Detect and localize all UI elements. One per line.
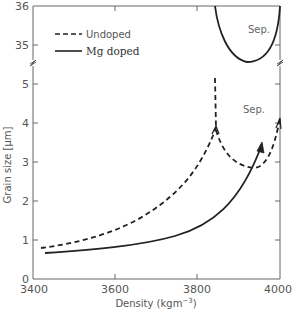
- y-tick-3: 3: [22, 156, 29, 169]
- y-axis-title: Grain size [μm]: [2, 127, 13, 204]
- x-tick-labels: 3400 3600 3800 4000: [20, 283, 292, 296]
- legend: Undoped Mg doped: [55, 29, 140, 57]
- legend-undoped-label: Undoped: [86, 29, 131, 40]
- y-tick-36: 36: [15, 0, 29, 13]
- x-tick-4000: 4000: [264, 283, 292, 296]
- y-tick-1: 1: [22, 234, 29, 247]
- axes: [33, 6, 280, 279]
- y-ticks: [33, 45, 280, 240]
- y-tick-4: 4: [22, 117, 29, 130]
- annotation-sep-lower: Sep.: [243, 104, 265, 115]
- legend-mg-label: Mg doped: [86, 45, 140, 57]
- y-tick-5: 5: [22, 78, 29, 91]
- x-axis-title: Density (kgm−3): [115, 297, 196, 309]
- mg-doped-arrow-icon: [257, 142, 264, 153]
- x-tick-3600: 3600: [101, 283, 129, 296]
- x-tick-3800: 3800: [183, 283, 211, 296]
- annotation-sep-upper: Sep.: [248, 24, 270, 35]
- chart: 36 35 5 4 3 2 1 0 3400 3600 3800 4000 De…: [0, 0, 296, 312]
- y-tick-35: 35: [15, 39, 29, 52]
- y-tick-labels: 36 35 5 4 3 2 1 0: [15, 0, 29, 286]
- series-mg-doped: [45, 144, 262, 253]
- y-tick-2: 2: [22, 195, 29, 208]
- x-tick-3400: 3400: [20, 283, 48, 296]
